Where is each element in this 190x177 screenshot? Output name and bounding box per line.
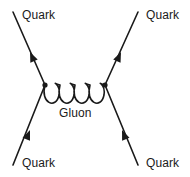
gluon-propagator xyxy=(44,83,105,103)
fermion-lines xyxy=(13,12,138,165)
vertex-dot-right xyxy=(102,82,107,87)
arrowheads xyxy=(23,50,130,140)
label-quark-top-right: Quark xyxy=(146,9,179,22)
vertex-dot-left xyxy=(42,82,47,87)
gluon-spiral xyxy=(44,83,105,103)
arrowhead-upper-right xyxy=(113,50,124,62)
quark-line-lower-left xyxy=(13,85,45,165)
feynman-diagram: Quark Quark Quark Quark Gluon xyxy=(0,0,190,177)
quark-line-lower-right xyxy=(105,85,138,165)
label-gluon: Gluon xyxy=(59,107,92,120)
diagram-canvas xyxy=(0,0,190,177)
quark-line-upper-right xyxy=(105,12,138,85)
label-quark-bottom-right: Quark xyxy=(146,157,179,170)
quark-line-upper-left xyxy=(13,12,45,85)
label-quark-top-left: Quark xyxy=(22,9,55,22)
label-quark-bottom-left: Quark xyxy=(22,157,55,170)
arrowhead-upper-left xyxy=(26,50,37,62)
